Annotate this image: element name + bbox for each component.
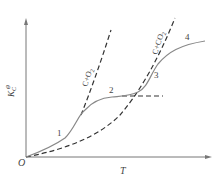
svg-text:C+CO2: C+CO2 (150, 30, 167, 56)
point-label-3: 3 (154, 70, 159, 80)
solid-curve-overall (26, 41, 205, 157)
y-axis-arrow-icon (24, 18, 28, 25)
dashed-line-c-co2 (26, 18, 175, 157)
c-co2-label: C+CO2 (150, 30, 167, 56)
x-axis-label: T (120, 165, 127, 176)
x-axis-arrow-icon (205, 155, 212, 159)
kinetics-diagram: O T KC⊖ C+O2 C+CO2 1 2 3 4 (0, 0, 221, 178)
point-label-1: 1 (57, 128, 62, 138)
point-label-2: 2 (109, 85, 114, 95)
point-label-4: 4 (185, 32, 190, 42)
y-axis-label: KC⊖ (5, 84, 17, 98)
origin-label: O (18, 157, 25, 168)
axes (24, 18, 212, 159)
c-o2-label: C+O2 (80, 67, 95, 88)
svg-text:KC⊖: KC⊖ (5, 84, 17, 98)
svg-text:C+O2: C+O2 (80, 67, 95, 88)
